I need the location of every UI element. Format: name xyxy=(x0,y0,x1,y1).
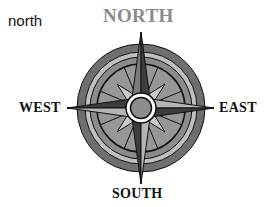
center-disc xyxy=(131,98,152,119)
compass-rose-icon xyxy=(0,0,268,207)
